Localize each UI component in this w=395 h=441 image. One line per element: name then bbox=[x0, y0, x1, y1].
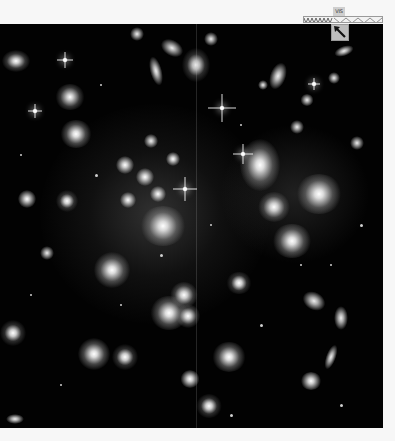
star-dot bbox=[360, 224, 363, 227]
star-dot bbox=[210, 224, 212, 226]
star-dot bbox=[95, 174, 98, 177]
galaxy bbox=[144, 134, 158, 148]
galaxy bbox=[158, 35, 187, 61]
star-dot bbox=[240, 124, 242, 126]
galaxy bbox=[55, 84, 85, 110]
galaxy bbox=[60, 120, 92, 148]
foreground-star bbox=[217, 103, 227, 113]
detector-seam bbox=[196, 24, 197, 428]
star-dot bbox=[160, 254, 163, 257]
galaxy-cluster-image bbox=[0, 24, 383, 428]
foreground-star bbox=[238, 149, 248, 159]
galaxy bbox=[56, 190, 78, 212]
galaxy bbox=[196, 394, 222, 418]
galaxy bbox=[300, 372, 322, 390]
star-dot bbox=[30, 294, 32, 296]
galaxy bbox=[136, 168, 154, 186]
filter-label: VIS bbox=[333, 7, 345, 16]
galaxy bbox=[130, 27, 144, 41]
galaxy bbox=[240, 139, 280, 191]
galaxy bbox=[300, 94, 314, 106]
star-dot bbox=[300, 264, 302, 266]
galaxy bbox=[180, 370, 200, 388]
galaxy bbox=[140, 206, 186, 246]
galaxy bbox=[333, 43, 355, 59]
galaxy bbox=[272, 224, 312, 258]
galaxy bbox=[322, 343, 340, 371]
galaxy bbox=[150, 186, 166, 202]
galaxy bbox=[266, 60, 291, 92]
galaxy bbox=[258, 192, 290, 222]
foreground-star bbox=[180, 184, 190, 194]
galaxy bbox=[94, 252, 130, 288]
galaxy bbox=[350, 136, 364, 150]
galaxy bbox=[328, 72, 340, 84]
galaxy bbox=[6, 414, 24, 424]
galaxy bbox=[18, 190, 36, 208]
zigzag-ruler-icon bbox=[303, 16, 383, 23]
star-dot bbox=[230, 414, 233, 417]
star-dot bbox=[20, 154, 22, 156]
star-dot bbox=[330, 264, 332, 266]
compass-arrow-icon bbox=[331, 24, 349, 41]
galaxy bbox=[116, 156, 134, 174]
galaxy bbox=[258, 80, 268, 90]
galaxy bbox=[112, 344, 138, 370]
galaxy bbox=[78, 338, 110, 370]
galaxy bbox=[212, 342, 246, 372]
galaxy bbox=[299, 287, 329, 315]
galaxy bbox=[334, 306, 348, 330]
foreground-star bbox=[30, 106, 40, 116]
galaxy bbox=[40, 246, 54, 260]
star-dot bbox=[100, 84, 102, 86]
galaxy bbox=[2, 50, 30, 72]
galaxy bbox=[204, 32, 218, 46]
foreground-star bbox=[60, 55, 70, 65]
galaxy bbox=[120, 192, 136, 208]
galaxy bbox=[166, 152, 180, 166]
galaxy bbox=[0, 320, 26, 346]
star-dot bbox=[60, 384, 62, 386]
star-dot bbox=[340, 404, 343, 407]
galaxy bbox=[296, 174, 342, 214]
foreground-star bbox=[310, 80, 318, 88]
galaxy bbox=[226, 272, 252, 294]
galaxy bbox=[290, 120, 304, 134]
star-dot bbox=[120, 304, 122, 306]
star-dot bbox=[260, 324, 263, 327]
galaxy bbox=[146, 55, 165, 87]
